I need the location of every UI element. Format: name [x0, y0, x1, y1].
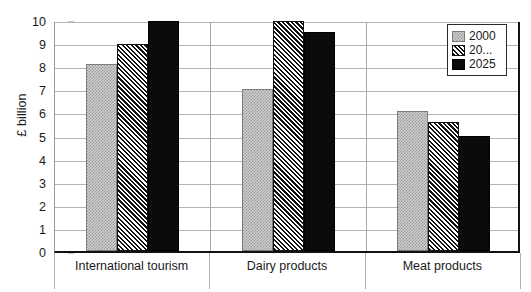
legend-item-label: 20... — [469, 44, 492, 57]
chart-legend: 200020...2025 — [447, 24, 507, 76]
bar[interactable] — [242, 89, 273, 251]
y-axis-tick-label: 9 — [20, 38, 46, 52]
bar[interactable] — [86, 64, 117, 251]
legend-swatch-icon — [452, 59, 465, 70]
plot-boundary-extension — [54, 253, 55, 289]
bar-chart: £ billion 012345678910 International tou… — [0, 0, 531, 292]
legend-item-label: 2025 — [469, 58, 496, 71]
bar[interactable] — [304, 32, 335, 251]
y-axis-tick-label: 7 — [20, 84, 46, 98]
group-divider-extension — [365, 253, 366, 289]
x-axis-category-label: Meat products — [365, 259, 520, 273]
bar[interactable] — [428, 122, 459, 251]
y-axis-tick-label: 3 — [20, 177, 46, 191]
plot-boundary-extension — [520, 253, 521, 289]
bar[interactable] — [117, 44, 148, 251]
y-axis-tick-label: 2 — [20, 200, 46, 214]
x-axis-category-label: International tourism — [54, 259, 209, 273]
y-axis-tick-label: 10 — [20, 15, 46, 29]
legend-item[interactable]: 2025 — [452, 57, 502, 71]
group-divider — [210, 22, 211, 251]
bar[interactable] — [273, 21, 304, 251]
bar[interactable] — [148, 21, 179, 251]
y-axis-tick-label: 0 — [20, 246, 46, 260]
y-axis-tick-label: 8 — [20, 61, 46, 75]
legend-swatch-icon — [452, 45, 465, 56]
legend-item[interactable]: 20... — [452, 43, 502, 57]
group-divider — [366, 22, 367, 251]
y-axis-tick-label: 5 — [20, 131, 46, 145]
legend-item[interactable]: 2000 — [452, 29, 502, 43]
legend-item-label: 2000 — [469, 30, 496, 43]
y-axis-tick-label: 4 — [20, 154, 46, 168]
y-axis-tick-labels: 012345678910 — [20, 14, 46, 253]
bar[interactable] — [459, 136, 490, 252]
legend-swatch-icon — [452, 31, 465, 42]
group-divider-extension — [209, 253, 210, 289]
y-axis-tick-label: 1 — [20, 223, 46, 237]
x-axis-category-label: Dairy products — [209, 259, 364, 273]
y-axis-tick-label: 6 — [20, 107, 46, 121]
bar[interactable] — [397, 111, 428, 251]
